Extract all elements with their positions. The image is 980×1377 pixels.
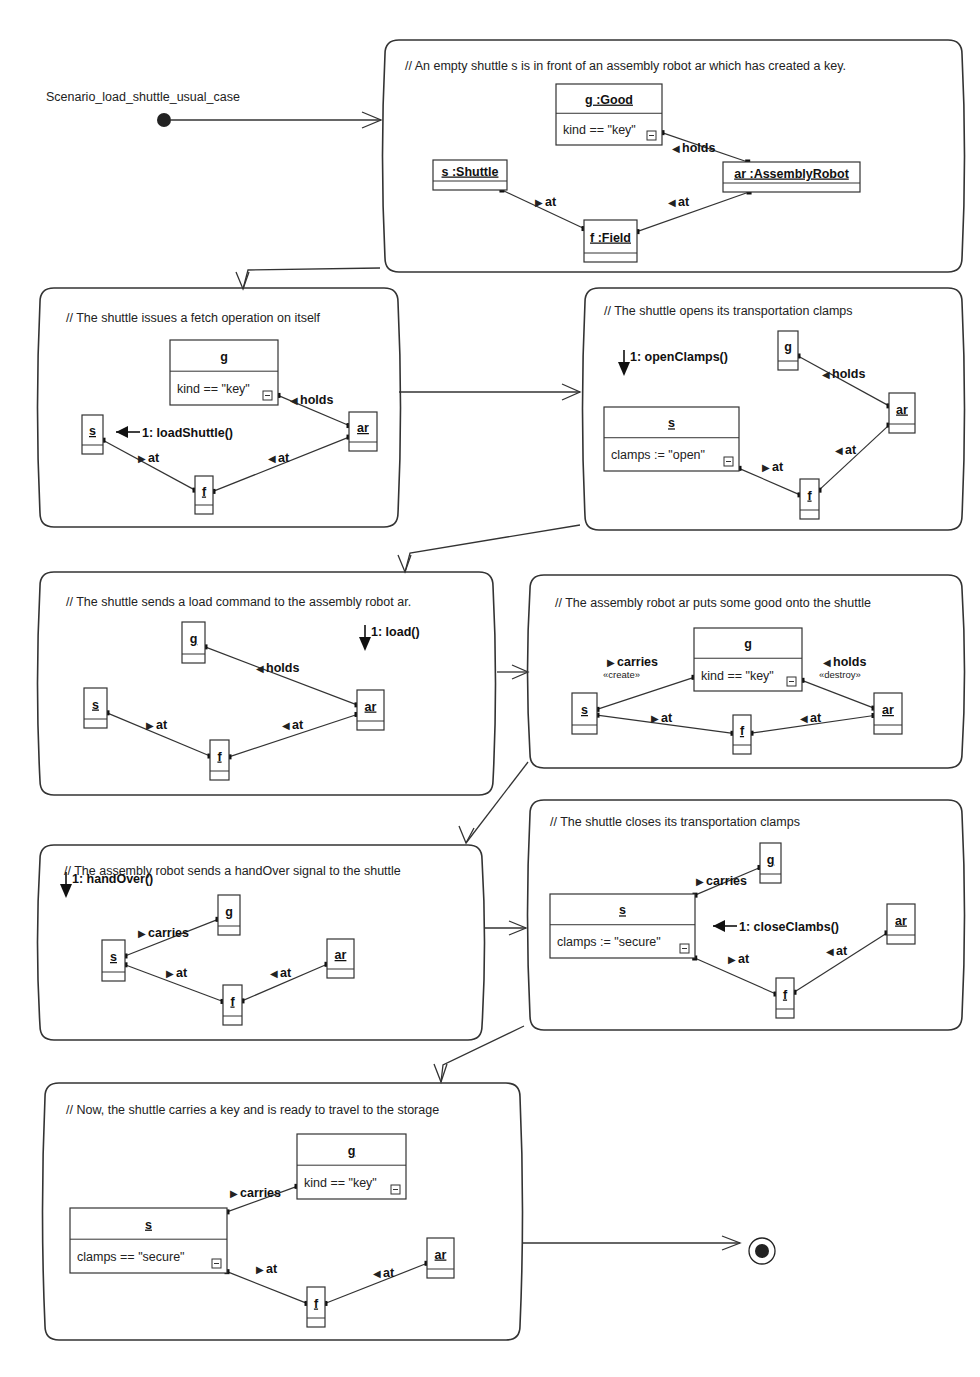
link-direction-icon: ◀ xyxy=(282,720,290,731)
object-s[interactable]: s xyxy=(572,693,597,734)
link-direction-icon: ▶ xyxy=(138,928,146,939)
frame-comment: // Now, the shuttle carries a key and is… xyxy=(66,1103,439,1117)
object-name: g xyxy=(220,350,228,364)
object-ar[interactable]: ar xyxy=(427,1238,454,1278)
object-name: s xyxy=(619,903,626,917)
frame-comment: // The shuttle sends a load command to t… xyxy=(66,595,411,609)
object-s[interactable]: s xyxy=(84,688,107,728)
frame-f3[interactable]: // The shuttle opens its transportation … xyxy=(583,288,965,530)
object-f[interactable]: f xyxy=(223,985,242,1025)
frame-comment: // The assembly robot ar puts some good … xyxy=(555,596,871,610)
link-label: holds xyxy=(832,367,865,381)
object-name: s xyxy=(668,416,675,430)
frame-comment: // An empty shuttle s is in front of an … xyxy=(405,59,846,73)
object-s[interactable]: sclamps := "open" xyxy=(604,407,739,471)
object-ar[interactable]: ar :AssemblyRobot xyxy=(723,162,860,192)
object-ar[interactable]: ar xyxy=(887,904,915,944)
object-s[interactable]: s xyxy=(82,415,103,454)
object-name: ar xyxy=(882,703,894,717)
link-label: at xyxy=(836,944,848,958)
link-direction-icon: ◀ xyxy=(672,143,680,154)
link-direction-icon: ▶ xyxy=(138,453,146,464)
activity-frame[interactable] xyxy=(383,40,965,272)
object-name: f :Field xyxy=(590,231,631,245)
link-direction-icon: ▶ xyxy=(535,197,543,208)
frame-f5[interactable]: // The assembly robot ar puts some good … xyxy=(528,575,965,768)
frame-f7[interactable]: // The shuttle closes its transportation… xyxy=(528,800,965,1030)
link-direction-icon: ◀ xyxy=(826,946,834,957)
object-f[interactable]: f xyxy=(195,476,213,514)
link-label: at xyxy=(292,718,304,732)
link-direction-icon: ◀ xyxy=(373,1268,381,1279)
link-stereotype: «create» xyxy=(603,669,640,680)
object-attribute: kind == "key" xyxy=(563,123,636,137)
link-direction-icon: ◀ xyxy=(668,197,676,208)
object-ar[interactable]: ar xyxy=(327,939,354,978)
object-g[interactable]: g xyxy=(778,331,798,370)
link-label: carries xyxy=(240,1186,281,1200)
object-attribute: clamps := "secure" xyxy=(557,935,661,949)
object-name: g xyxy=(784,340,792,354)
transition-f1-f2[interactable] xyxy=(243,268,380,289)
object-ar[interactable]: ar xyxy=(874,693,902,734)
link-label: at xyxy=(176,966,188,980)
message-label: 1: openClamps() xyxy=(630,350,728,364)
object-f[interactable]: f xyxy=(210,740,229,780)
object-name: s xyxy=(581,703,588,717)
link-direction-icon: ▶ xyxy=(728,954,736,965)
transition-f3-f4[interactable] xyxy=(405,525,580,572)
frame-f4[interactable]: // The shuttle sends a load command to t… xyxy=(38,572,496,795)
frame-f8[interactable]: // Now, the shuttle carries a key and is… xyxy=(43,1083,523,1340)
object-name: s xyxy=(110,950,117,964)
link-direction-icon: ▶ xyxy=(762,462,770,473)
object-name: g xyxy=(190,632,198,646)
object-attribute: kind == "key" xyxy=(701,669,774,683)
object-g[interactable]: g xyxy=(218,895,240,935)
link-direction-icon: ◀ xyxy=(823,657,831,668)
link-label: holds xyxy=(300,393,333,407)
object-g[interactable]: g xyxy=(182,622,205,663)
frame-f1[interactable]: // An empty shuttle s is in front of an … xyxy=(383,40,965,272)
object-s[interactable]: s xyxy=(102,940,125,981)
link-label: holds xyxy=(682,141,715,155)
object-g[interactable]: gkind == "key" xyxy=(694,628,802,691)
object-ar[interactable]: ar xyxy=(349,412,377,451)
link-label: at xyxy=(266,1262,278,1276)
object-name: ar xyxy=(365,700,377,714)
object-s[interactable]: sclamps == "secure" xyxy=(70,1208,227,1273)
object-name: ar xyxy=(435,1248,447,1262)
message-label: 1: load() xyxy=(371,625,420,639)
link-direction-icon: ◀ xyxy=(800,713,808,724)
object-name: ar xyxy=(335,948,347,962)
link-direction-icon: ◀ xyxy=(835,445,843,456)
object-g[interactable]: gkind == "key" xyxy=(297,1134,406,1199)
object-g[interactable]: g xyxy=(760,843,781,883)
object-f[interactable]: f xyxy=(307,1287,325,1327)
link-direction-icon: ▶ xyxy=(696,876,704,887)
link-label: at xyxy=(383,1266,395,1280)
link-label: at xyxy=(845,443,857,457)
link-stereotype: «destroy» xyxy=(819,669,861,680)
frame-f2[interactable]: // The shuttle issues a fetch operation … xyxy=(38,288,401,527)
object-g[interactable]: gkind == "key" xyxy=(170,340,278,405)
object-s[interactable]: sclamps := "secure" xyxy=(550,894,695,958)
object-name: s xyxy=(89,424,96,438)
link-label: at xyxy=(772,460,784,474)
object-f[interactable]: f xyxy=(776,978,794,1018)
link-direction-icon: ▶ xyxy=(166,968,174,979)
link-direction-icon: ◀ xyxy=(290,395,298,406)
object-ar[interactable]: ar xyxy=(889,393,915,433)
object-attribute: kind == "key" xyxy=(177,382,250,396)
object-f[interactable]: f xyxy=(800,479,819,519)
link-direction-icon: ◀ xyxy=(268,453,276,464)
initial-state-icon[interactable] xyxy=(157,113,171,127)
object-s[interactable]: s :Shuttle xyxy=(433,160,507,190)
object-f[interactable]: f :Field xyxy=(584,220,637,262)
object-f[interactable]: f xyxy=(733,715,751,754)
link-direction-icon: ▶ xyxy=(230,1188,238,1199)
object-g[interactable]: g :Goodkind == "key" xyxy=(556,84,662,145)
frame-f6[interactable]: // The assembly robot sends a handOver s… xyxy=(38,845,485,1040)
link-label: holds xyxy=(266,661,299,675)
object-ar[interactable]: ar xyxy=(357,690,384,730)
object-name: ar xyxy=(357,421,369,435)
